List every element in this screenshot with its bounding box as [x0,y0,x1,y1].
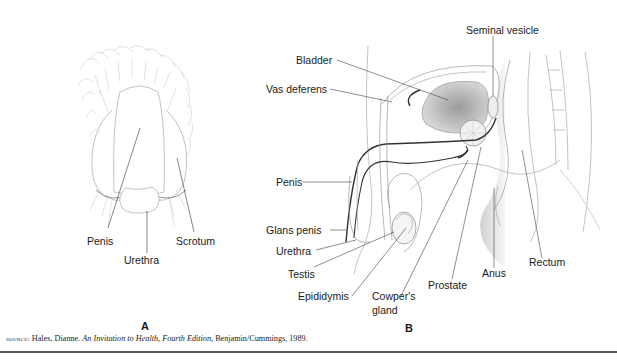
label-a-penis: Penis [87,236,113,247]
label-prostate: Prostate [428,280,467,291]
label-vas-deferens: Vas deferens [266,84,327,95]
source-publisher: Benjamin/Cummings, 1989. [213,334,308,343]
source-title: An Invitation to Health, Fourth Edition, [82,334,213,343]
glans-outline [120,187,159,213]
label-penis: Penis [276,177,302,188]
testis [392,212,416,244]
panel-label-a: A [141,321,149,332]
label-anus: Anus [482,268,506,279]
penis-outline [349,176,370,242]
label-urethra: Urethra [276,246,311,257]
label-seminal-vesicle: Seminal vesicle [466,25,539,36]
sacrum [546,50,592,232]
source-author: Hales, Dianne. [32,334,82,343]
seminal-vesicle [488,96,498,118]
label-rectum: Rectum [529,257,565,268]
label-cowpers-gland-1: Cowper's [372,291,415,302]
label-a-urethra: Urethra [124,255,159,266]
panel-label-b: B [405,323,413,334]
source-prefix: source: [6,335,30,343]
label-testis: Testis [288,269,315,280]
penis-shaft-outline [114,86,165,195]
label-glans-penis: Glans penis [266,225,321,236]
label-epididymis: Epididymis [298,291,349,302]
figure-a-drawing [78,46,194,253]
bottom-rule [0,351,617,353]
label-cowpers-gland-2: gland [372,305,398,316]
label-bladder: Bladder [296,55,332,66]
source-citation: source: Hales, Dianne. An Invitation to … [6,334,308,343]
label-a-scrotum: Scrotum [176,236,215,247]
